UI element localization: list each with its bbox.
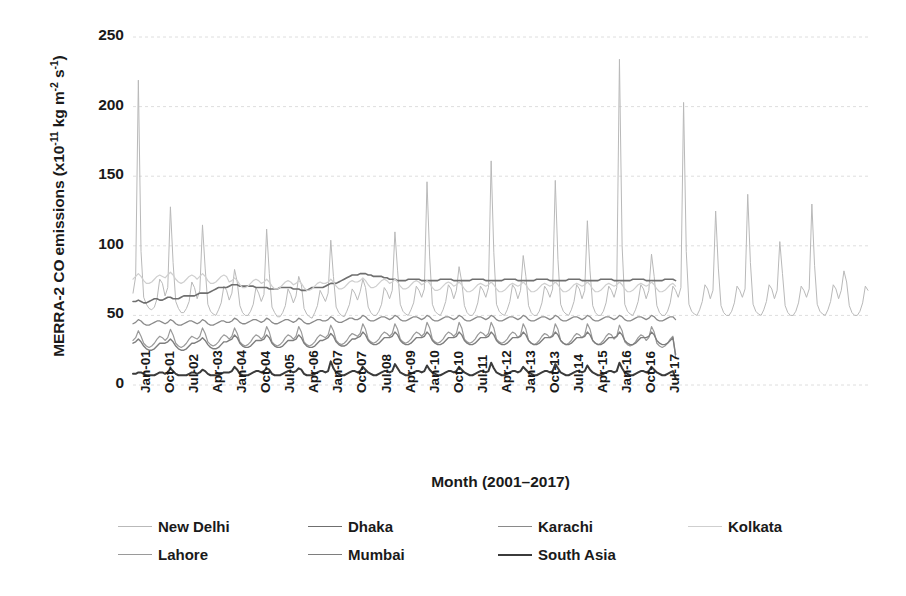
x-tick-label: Jan-01	[138, 350, 153, 393]
x-tick-label: Apr-03	[210, 350, 225, 393]
legend-swatch-icon	[118, 520, 152, 532]
x-tick-label: Jul-14	[571, 354, 586, 393]
x-tick-label: Oct-01	[162, 351, 177, 393]
series-line-dhaka	[133, 274, 676, 303]
x-tick-label: Jul-17	[667, 354, 682, 393]
x-axis-title: Month (2001–2017)	[133, 473, 868, 491]
legend-swatch-icon	[498, 548, 532, 560]
legend-swatch-icon	[498, 520, 532, 532]
x-tick-label: Jan-13	[523, 350, 538, 393]
legend-label: Mumbai	[348, 546, 405, 563]
series-line-new-delhi	[133, 59, 868, 318]
chart-legend: New DelhiDhakaKarachiKolkata LahoreMumba…	[118, 512, 888, 568]
x-tick-label: Jul-05	[282, 354, 297, 393]
x-tick-label: Apr-09	[403, 350, 418, 393]
legend-item-kolkata[interactable]: Kolkata	[688, 512, 878, 540]
x-tick-label: Apr-06	[306, 350, 321, 393]
legend-label: Karachi	[538, 518, 593, 535]
x-tick-label: Jan-16	[619, 350, 634, 393]
gridlines	[133, 37, 868, 385]
legend-label: South Asia	[538, 546, 616, 563]
legend-item-new-delhi[interactable]: New Delhi	[118, 512, 308, 540]
x-tick-label: Oct-10	[451, 351, 466, 393]
y-tick-label: 100	[62, 235, 124, 253]
series-line-karachi	[133, 315, 676, 325]
x-tick-label: Jul-11	[475, 355, 490, 393]
legend-item-dhaka[interactable]: Dhaka	[308, 512, 498, 540]
y-tick-label: 200	[62, 96, 124, 114]
x-tick-label: Oct-04	[258, 351, 273, 393]
x-tick-label: Apr-15	[595, 350, 610, 393]
legend-label: Kolkata	[728, 518, 782, 535]
legend-swatch-icon	[688, 520, 722, 532]
legend-label: Dhaka	[348, 518, 393, 535]
legend-item-south-asia[interactable]: South Asia	[498, 540, 688, 568]
plot-canvas	[0, 0, 906, 596]
legend-swatch-icon	[308, 548, 342, 560]
legend-row: New DelhiDhakaKarachiKolkata	[118, 512, 888, 540]
legend-item-mumbai[interactable]: Mumbai	[308, 540, 498, 568]
legend-item-lahore[interactable]: Lahore	[118, 540, 308, 568]
x-tick-label: Jan-07	[330, 350, 345, 393]
x-tick-label: Jul-08	[379, 354, 394, 393]
x-tick-label: Apr-12	[499, 350, 514, 393]
y-tick-label: 250	[62, 26, 124, 44]
x-tick-label: Oct-07	[354, 351, 369, 393]
x-tick-label: Jul-02	[186, 354, 201, 393]
legend-row: LahoreMumbaiSouth Asia	[118, 540, 888, 568]
y-tick-label: 150	[62, 165, 124, 183]
legend-swatch-icon	[308, 520, 342, 532]
legend-item-karachi[interactable]: Karachi	[498, 512, 688, 540]
x-tick-label: Oct-16	[643, 351, 658, 393]
chart-figure: MERRA-2 CO emissions (x10-11 kg m-2 s-1)…	[0, 0, 906, 596]
y-tick-label: 50	[62, 304, 124, 322]
legend-swatch-icon	[118, 548, 152, 560]
x-tick-label: Jan-10	[427, 350, 442, 393]
x-tick-label: Oct-13	[547, 351, 562, 393]
legend-label: Lahore	[158, 546, 208, 563]
x-tick-label: Jan-04	[234, 350, 249, 393]
legend-label: New Delhi	[158, 518, 230, 535]
y-tick-label: 0	[62, 374, 124, 392]
